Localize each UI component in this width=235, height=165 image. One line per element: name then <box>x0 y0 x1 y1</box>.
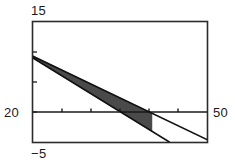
plot-frame <box>33 22 208 143</box>
graphing-calculator-screen: 15 −5 20 50 <box>0 0 235 165</box>
plot-area <box>0 0 235 165</box>
